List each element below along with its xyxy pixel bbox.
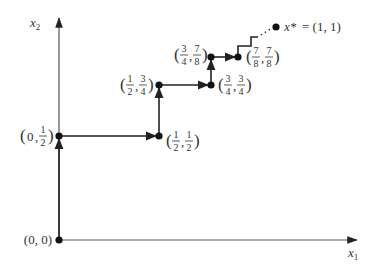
- svg-text:(: (: [174, 45, 180, 64]
- svg-text:4: 4: [226, 86, 231, 97]
- svg-text:1: 1: [187, 129, 192, 140]
- point-p5: [207, 53, 214, 60]
- svg-text:3: 3: [141, 73, 146, 84]
- svg-text:2: 2: [187, 142, 192, 153]
- point-p1: [55, 132, 62, 139]
- svg-text:(: (: [166, 131, 172, 150]
- dotted-continuation: [261, 28, 272, 35]
- svg-text:7: 7: [254, 45, 259, 56]
- svg-text:0: 0: [27, 129, 34, 144]
- svg-text:4: 4: [141, 86, 146, 97]
- svg-text:,: ,: [189, 48, 192, 63]
- svg-text:3: 3: [182, 43, 187, 54]
- label-p5: ( 3 4 , 7 8 ): [174, 43, 208, 67]
- svg-text:,: ,: [135, 78, 138, 93]
- svg-text:): ): [274, 47, 280, 66]
- point-p3: [155, 81, 162, 88]
- svg-text:8: 8: [267, 58, 272, 69]
- svg-text:3: 3: [239, 73, 244, 84]
- svg-text:,: ,: [35, 129, 38, 144]
- point-p6: [234, 53, 241, 60]
- point-p2: [155, 132, 162, 139]
- svg-text:x*: x*: [283, 19, 297, 34]
- svg-text:,: ,: [233, 78, 236, 93]
- svg-text:1: 1: [128, 73, 133, 84]
- svg-text:1: 1: [41, 124, 46, 135]
- svg-text:): ): [148, 75, 154, 94]
- point-p0: [55, 236, 62, 243]
- svg-text:,: ,: [181, 134, 184, 149]
- svg-text:4: 4: [182, 56, 187, 67]
- label-p3: ( 1 2 , 3 4 ): [120, 73, 154, 97]
- svg-text:2: 2: [41, 137, 46, 148]
- svg-text:= (1, 1): = (1, 1): [302, 19, 341, 34]
- svg-text:1: 1: [174, 129, 179, 140]
- svg-text:): ): [48, 126, 54, 145]
- label-p0: (0, 0): [24, 232, 52, 247]
- svg-text:2: 2: [174, 142, 179, 153]
- svg-text:8: 8: [195, 56, 200, 67]
- svg-text:): ): [246, 75, 252, 94]
- svg-text:7: 7: [195, 43, 200, 54]
- svg-text:3: 3: [226, 73, 231, 84]
- point-labels: (0, 0) ( 0 , 1 2 ) ( 1 2 , 1 2 ) ( 1: [20, 19, 341, 247]
- svg-text:8: 8: [254, 58, 259, 69]
- svg-text:): ): [194, 131, 200, 150]
- svg-text:): ): [202, 45, 208, 64]
- label-p1: ( 0 , 1 2 ): [20, 124, 54, 148]
- y-axis-label: x2: [29, 15, 40, 32]
- svg-text:(: (: [20, 126, 26, 145]
- label-p2: ( 1 2 , 1 2 ): [166, 129, 200, 153]
- coordinate-descent-diagram: x1 x2 (0, 0) ( 0 , 1: [0, 0, 376, 265]
- svg-text:(: (: [218, 75, 224, 94]
- label-p6: ( 7 8 , 7 8 ): [246, 45, 280, 69]
- svg-text:(: (: [120, 75, 126, 94]
- svg-text:(: (: [246, 47, 252, 66]
- x-axis-label: x1: [347, 245, 358, 262]
- point-limit: [272, 23, 279, 30]
- svg-text:,: ,: [261, 50, 264, 65]
- label-limit: x* = (1, 1): [283, 19, 341, 34]
- label-p4: ( 3 4 , 3 4 ): [218, 73, 252, 97]
- svg-text:2: 2: [128, 86, 133, 97]
- point-p4: [207, 81, 214, 88]
- svg-text:7: 7: [267, 45, 272, 56]
- svg-text:4: 4: [239, 86, 244, 97]
